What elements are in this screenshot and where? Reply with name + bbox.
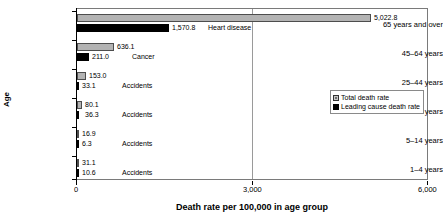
x-tick-label-3000: 3,000: [243, 185, 262, 194]
cause-annotation: Cancer: [132, 53, 155, 61]
y-tick-label-1-4: 1–4 years: [371, 165, 443, 174]
y-tick-label-45-64: 45–64 years: [371, 49, 443, 58]
bar-value-leading: 1,570.8: [172, 24, 195, 32]
y-tick-mark: [72, 11, 77, 12]
bar-value-leading: 211.0: [92, 53, 109, 61]
bar-value-total: 153.0: [89, 72, 107, 80]
bar-leading-cause-rate: [77, 169, 79, 177]
y-tick-mark: [72, 179, 77, 180]
bar-leading-cause-rate: [77, 82, 79, 90]
bar-value-total: 5,022.8: [374, 14, 397, 22]
bar-total-death-rate: [77, 101, 82, 109]
bar-chart: Age 65 years and over 45–64 years 25–44 …: [0, 0, 443, 221]
cause-annotation: Accidents: [122, 169, 152, 177]
legend-item-total-death-rate: Total death rate: [333, 93, 420, 102]
legend-swatch-icon: [333, 104, 339, 110]
bar-value-total: 31.1: [82, 159, 96, 167]
legend-label: Leading cause death rate: [341, 102, 420, 111]
bar-leading-cause-rate: [77, 24, 169, 32]
bar-value-leading: 10.6: [82, 169, 96, 177]
bar-total-death-rate: [77, 72, 86, 80]
bar-value-leading: 36.3: [85, 111, 99, 119]
x-tick-label-0: 0: [74, 185, 78, 194]
y-tick-label-5-14: 5–14 years: [371, 136, 443, 145]
bar-total-death-rate: [77, 130, 79, 138]
cause-annotation: Accidents: [122, 111, 152, 119]
bar-total-death-rate: [77, 43, 114, 51]
cause-annotation: Accidents: [122, 140, 152, 148]
bar-value-leading: 33.1: [82, 82, 96, 90]
y-axis-title: Age: [2, 80, 11, 120]
bar-value-total: 80.1: [85, 101, 99, 109]
bar-value-total: 636.1: [117, 43, 135, 51]
y-tick-mark: [72, 156, 77, 157]
y-tick-label-25-44: 25–44 years: [371, 78, 443, 87]
legend-label: Total death rate: [341, 93, 389, 102]
bar-value-leading: 6.3: [82, 140, 92, 148]
bar-value-total: 16.9: [82, 130, 96, 138]
bar-total-death-rate: [77, 159, 79, 167]
legend-item-leading-cause-death-rate: Leading cause death rate: [333, 102, 420, 111]
bar-leading-cause-rate: [77, 140, 79, 148]
cause-annotation: Heart disease: [208, 24, 251, 32]
bar-total-death-rate: [77, 14, 371, 22]
y-tick-mark: [72, 127, 77, 128]
gridline-3000: [252, 9, 253, 179]
x-tick-label-6000: 6,000: [418, 185, 437, 194]
x-axis-title: Death rate per 100,000 in age group: [76, 202, 428, 212]
y-tick-mark: [72, 40, 77, 41]
legend-swatch-icon: [333, 95, 339, 101]
bar-leading-cause-rate: [77, 111, 79, 119]
bar-leading-cause-rate: [77, 53, 89, 61]
y-tick-mark: [72, 98, 77, 99]
cause-annotation: Accidents: [122, 82, 152, 90]
chart-legend: Total death rate Leading cause death rat…: [330, 90, 424, 114]
y-tick-mark: [72, 69, 77, 70]
